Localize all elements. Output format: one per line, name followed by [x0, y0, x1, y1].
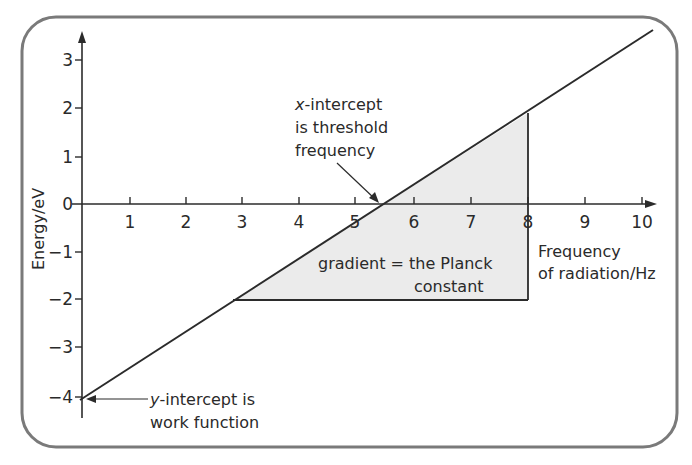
- y-tick-label: −2: [48, 289, 73, 309]
- x-tick-label: 9: [580, 212, 591, 232]
- x-tick-label: 6: [409, 212, 420, 232]
- y-axis-label: Energy/eV: [29, 188, 48, 270]
- x-tick-label: 8: [523, 212, 534, 232]
- x-axis-label-line1: Frequency: [538, 242, 621, 261]
- y-tick-label: 2: [62, 98, 73, 118]
- x-tick-label: 3: [237, 212, 248, 232]
- y-intercept-label-line2: work function: [150, 413, 259, 432]
- x-tick-label: 10: [631, 212, 653, 232]
- x-intercept-label-line1: x-intercept: [294, 95, 382, 114]
- gradient-label-line1: gradient = the Planck: [318, 254, 493, 273]
- x-tick-label: 7: [466, 212, 477, 232]
- x-tick-label: 4: [294, 212, 305, 232]
- x-tick-label: 2: [181, 212, 192, 232]
- x-intercept-label-line3: frequency: [295, 141, 375, 160]
- photoelectric-graph: 1 2 3 4 5 6 7 8 9 10 3 2 1 0 −1 −2 −3 −4…: [0, 0, 692, 465]
- x-axis-label-line2: of radiation/Hz: [538, 264, 656, 283]
- y-tick-label: 3: [62, 50, 73, 70]
- y-tick-label: −4: [48, 387, 73, 407]
- x-intercept-label-line2: is threshold: [295, 118, 388, 137]
- y-intercept-label-line1: y-intercept is: [149, 390, 255, 409]
- y-tick-label: −1: [48, 242, 73, 262]
- y-tick-label: 1: [62, 147, 73, 167]
- y-tick-label: 0: [62, 194, 73, 214]
- x-tick-label: 1: [125, 212, 136, 232]
- y-tick-label: −3: [48, 337, 73, 357]
- gradient-label-line2: constant: [414, 277, 484, 296]
